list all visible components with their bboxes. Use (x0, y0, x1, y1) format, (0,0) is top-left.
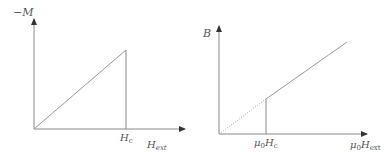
left-tick-label-hc: Hc (119, 132, 133, 145)
left-x-label: Hext (146, 139, 167, 152)
left-plot: −M Hc Hext (13, 6, 185, 152)
diagram-canvas: −M Hc Hext B μ0Hc μ0Hext (0, 0, 392, 156)
right-y-label: B (202, 27, 211, 40)
right-dotted-reference-line (219, 99, 266, 134)
right-field-line (266, 42, 347, 99)
left-y-label: −M (13, 6, 34, 19)
right-tick-label-mu0hc: μ0Hc (254, 137, 278, 150)
right-x-label: μ0Hext (350, 139, 381, 152)
right-plot: B μ0Hc μ0Hext (202, 26, 381, 152)
left-magnetization-line (34, 50, 126, 129)
